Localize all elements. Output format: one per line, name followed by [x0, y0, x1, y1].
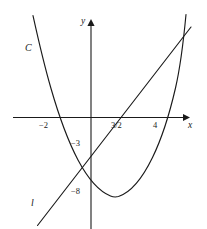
x-tick-label-four: 4 [153, 121, 157, 130]
parabola-curve-C [33, 15, 186, 197]
line-label-l: l [31, 198, 34, 208]
plot-canvas [0, 0, 207, 229]
y-axis [87, 19, 94, 229]
y-tick-label-neg8: −8 [71, 187, 80, 196]
x-tick-label-three-halves: 3/2 [111, 121, 122, 130]
x-axis-label: x [188, 121, 192, 131]
y-tick-label-neg3: −3 [71, 139, 80, 148]
y-axis-arrow [87, 19, 94, 26]
curve-label-C: C [25, 43, 32, 53]
x-tick-label-neg2: −2 [39, 121, 48, 130]
y-axis-label: y [81, 17, 85, 27]
graph-figure: C l x y −2 3/2 4 −3 −8 [0, 0, 207, 229]
